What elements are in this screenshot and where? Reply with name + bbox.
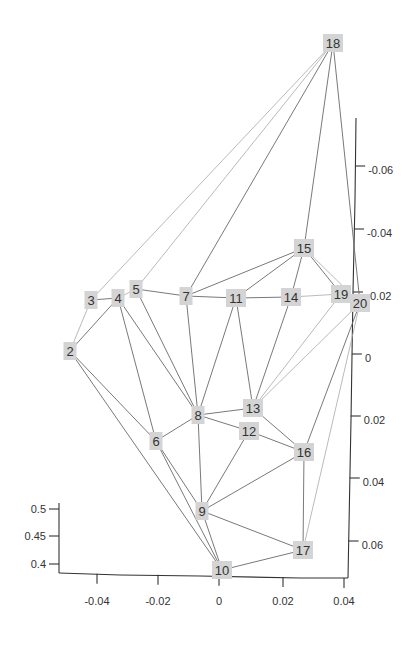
node-label: 18 bbox=[326, 36, 340, 51]
edge-6-9 bbox=[156, 441, 202, 511]
node-8[interactable]: 8 bbox=[192, 406, 205, 424]
node-label: 14 bbox=[284, 290, 298, 305]
right-axis-line bbox=[348, 118, 356, 578]
node-16[interactable]: 16 bbox=[294, 443, 314, 461]
z-tick-label: 0.45 bbox=[25, 530, 46, 542]
node-14[interactable]: 14 bbox=[281, 288, 301, 306]
edge-11-13 bbox=[236, 298, 253, 408]
node-label: 20 bbox=[353, 296, 367, 311]
node-label: 7 bbox=[182, 289, 189, 304]
node-7[interactable]: 7 bbox=[180, 287, 193, 305]
node-4[interactable]: 4 bbox=[112, 289, 125, 307]
node-5[interactable]: 5 bbox=[130, 280, 143, 298]
node-label: 16 bbox=[297, 445, 311, 460]
node-13[interactable]: 13 bbox=[243, 399, 263, 417]
node-label: 15 bbox=[297, 241, 311, 256]
node-18[interactable]: 18 bbox=[323, 34, 343, 52]
node-label: 12 bbox=[242, 424, 256, 439]
node-label: 13 bbox=[246, 401, 260, 416]
edge-14-13 bbox=[253, 297, 291, 408]
edge-12-9 bbox=[202, 431, 249, 511]
node-label: 5 bbox=[132, 282, 139, 297]
node-label: 17 bbox=[296, 543, 310, 558]
node-label: 2 bbox=[66, 344, 73, 359]
node-6[interactable]: 6 bbox=[150, 432, 163, 450]
y-tick-label: -0.06 bbox=[368, 164, 393, 176]
right-axis-ticks: -0.06-0.040.0200.020.040.06 bbox=[349, 164, 394, 551]
node-label: 8 bbox=[194, 408, 201, 423]
y-tick-label: 0.04 bbox=[363, 476, 384, 488]
node-label: 3 bbox=[87, 293, 94, 308]
x-tick-label: 0.02 bbox=[272, 595, 293, 607]
y-tick-label: -0.04 bbox=[367, 227, 392, 239]
edge-10-17 bbox=[222, 550, 303, 570]
edge-18-20 bbox=[333, 43, 360, 303]
edge-4-6 bbox=[118, 298, 156, 441]
edge-11-8 bbox=[198, 298, 236, 415]
node-label: 10 bbox=[215, 563, 229, 578]
edge-16-17 bbox=[303, 452, 304, 550]
y-tick-label: 0.02 bbox=[364, 414, 385, 426]
edge-7-8 bbox=[186, 296, 198, 415]
edge-5-7 bbox=[136, 289, 186, 296]
node-label: 9 bbox=[198, 504, 205, 519]
nodes: 234567891011121314151617181920 bbox=[64, 34, 371, 579]
network-plot: -0.04-0.0200.020.04 -0.06-0.040.0200.020… bbox=[0, 0, 419, 653]
x-tick-label: 0 bbox=[216, 595, 222, 607]
node-2[interactable]: 2 bbox=[64, 342, 77, 360]
node-label: 11 bbox=[229, 291, 243, 306]
x-tick-label: -0.04 bbox=[84, 595, 109, 607]
edge-18-7 bbox=[186, 43, 333, 296]
edge-4-8 bbox=[118, 298, 198, 415]
z-tick-label: 0.4 bbox=[31, 558, 46, 570]
edge-2-10 bbox=[70, 351, 222, 570]
node-20[interactable]: 20 bbox=[350, 294, 370, 312]
y-tick-label: 0.06 bbox=[362, 539, 383, 551]
node-19[interactable]: 19 bbox=[331, 285, 351, 303]
edge-19-13 bbox=[253, 294, 341, 408]
edge-5-8 bbox=[136, 289, 198, 415]
node-label: 19 bbox=[334, 287, 348, 302]
node-label: 6 bbox=[152, 434, 159, 449]
z-tick-label: 0.5 bbox=[31, 503, 46, 515]
node-15[interactable]: 15 bbox=[294, 239, 314, 257]
node-12[interactable]: 12 bbox=[239, 422, 259, 440]
z-axis-ticks: 0.50.450.4 bbox=[25, 503, 59, 570]
x-tick-label: -0.02 bbox=[145, 595, 170, 607]
node-3[interactable]: 3 bbox=[85, 291, 98, 309]
edge-20-13 bbox=[253, 303, 360, 408]
edge-20-17 bbox=[303, 303, 360, 550]
node-label: 4 bbox=[114, 291, 121, 306]
x-tick-label: 0.04 bbox=[333, 595, 354, 607]
edge-18-3 bbox=[91, 43, 333, 300]
edge-9-17 bbox=[202, 511, 303, 550]
node-11[interactable]: 11 bbox=[226, 289, 246, 307]
y-tick-label: 0 bbox=[365, 352, 371, 364]
node-10[interactable]: 10 bbox=[212, 561, 232, 579]
node-17[interactable]: 17 bbox=[293, 541, 313, 559]
x-axis-line bbox=[59, 573, 348, 578]
edge-2-6 bbox=[70, 351, 156, 441]
edge-8-9 bbox=[198, 415, 202, 511]
edge-9-16 bbox=[202, 452, 304, 511]
y-tick-label: 0.02 bbox=[370, 290, 391, 302]
node-9[interactable]: 9 bbox=[196, 502, 209, 520]
